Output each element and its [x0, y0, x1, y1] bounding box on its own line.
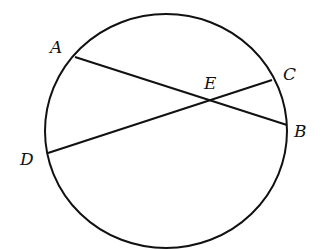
- chord-ab: [75, 57, 287, 125]
- circle-diagram: A E C B D: [0, 0, 321, 250]
- label-d: D: [19, 149, 34, 169]
- label-b: B: [293, 121, 307, 141]
- circle: [45, 14, 287, 248]
- chord-dc: [48, 80, 272, 153]
- label-a: A: [48, 37, 62, 57]
- label-e: E: [203, 73, 217, 93]
- label-c: C: [283, 64, 296, 84]
